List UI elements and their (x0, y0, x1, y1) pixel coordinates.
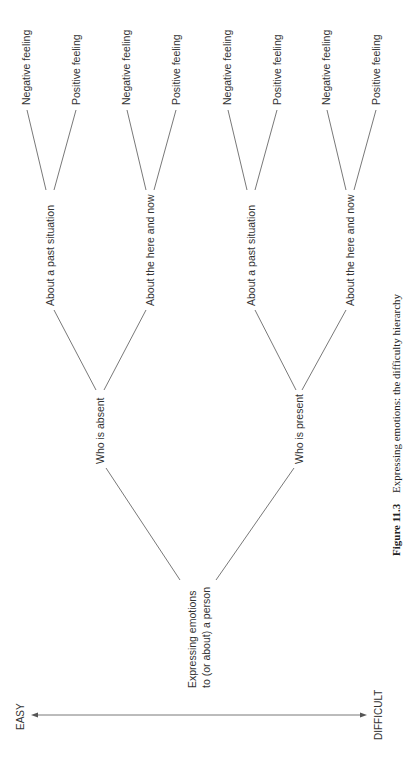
leaf-label: Positive feeling (70, 34, 82, 105)
difficulty-axis: EASY DIFFICULT (15, 690, 384, 740)
leaf-label: Negative feeling (320, 30, 332, 105)
caption-number: Figure 11.3 (390, 503, 402, 556)
axis-label-easy: EASY (15, 703, 26, 730)
leaf-label: Negative feeling (221, 30, 233, 105)
level1-label-absent: Who is absent (94, 397, 106, 464)
arrow-left-icon (31, 713, 38, 718)
level1-labels: Who is absent Who is present (94, 394, 305, 464)
figure-caption: Figure 11.3 Expressing emotions: the dif… (390, 293, 402, 556)
caption-text: Expressing emotions: the difficulty hier… (390, 293, 402, 492)
leaf-label: Positive feeling (170, 34, 182, 105)
difficulty-hierarchy-diagram: Negative feeling Positive feeling Negati… (0, 0, 403, 762)
arrow-right-icon (360, 713, 367, 718)
axis-label-difficult: DIFFICULT (373, 690, 384, 740)
leaf-label: Negative feeling (20, 30, 32, 105)
level2-labels: About a past situation About the here an… (44, 194, 356, 306)
svg-text:Figure 11.3 Expressing e: Figure 11.3 Expressing emotions: the dif… (390, 293, 402, 556)
level2-label: About the here and now (144, 194, 156, 306)
leaf-label: Negative feeling (120, 30, 132, 105)
root-label-line1: Expressing emotions (186, 591, 198, 688)
leaf-edges (27, 110, 376, 190)
level2-label: About the here and now (344, 194, 356, 306)
root-label-line2: to (or about) a person (200, 587, 212, 688)
leaf-label: Positive feeling (271, 34, 283, 105)
level2-label: About a past situation (44, 205, 56, 306)
level2-label: About a past situation (245, 205, 257, 306)
level1-label-present: Who is present (293, 394, 305, 464)
level2-edges (54, 310, 346, 390)
leaf-label: Positive feeling (370, 34, 382, 105)
leaf-labels: Negative feeling Positive feeling Negati… (20, 30, 382, 105)
root-label: Expressing emotions to (or about) a pers… (186, 587, 212, 688)
level1-edges (106, 468, 294, 580)
